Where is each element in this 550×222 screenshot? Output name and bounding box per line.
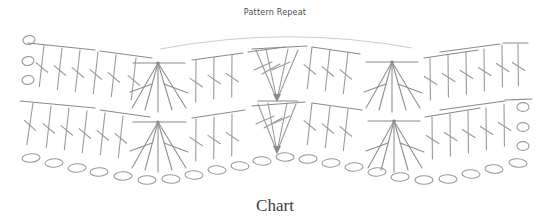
crochet-chart-diagram bbox=[0, 0, 550, 222]
foundation-chain-row bbox=[22, 153, 528, 185]
shell-cluster-row1-right bbox=[364, 60, 422, 112]
chart-caption: Chart bbox=[0, 196, 550, 216]
row-1-baseline bbox=[28, 43, 528, 63]
turning-chain-right bbox=[517, 103, 529, 151]
shell-cluster-row1-left bbox=[130, 61, 188, 112]
decrease-cluster-row2 bbox=[256, 103, 296, 154]
shell-cluster-row2-left bbox=[130, 120, 188, 172]
shell-cluster-row2-right bbox=[366, 119, 424, 172]
decrease-cluster-row1 bbox=[254, 49, 298, 102]
turning-chain-left bbox=[21, 35, 35, 85]
crochet-chart-figure: Pattern Repeat Chart bbox=[0, 0, 550, 222]
pattern-repeat-label: Pattern Repeat bbox=[0, 8, 550, 17]
row-2-baseline bbox=[20, 99, 532, 122]
row-2-stitches bbox=[22, 102, 512, 161]
